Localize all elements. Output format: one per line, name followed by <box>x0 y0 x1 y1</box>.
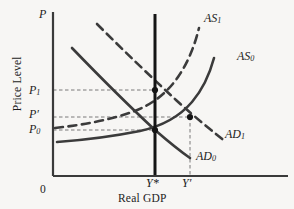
y-tick-p0-sub: 0 <box>36 127 40 136</box>
curve-label-as0-base: AS <box>237 49 250 63</box>
y-tick-p1-sub: 1 <box>36 88 40 97</box>
curve-label-ad0-base: AD <box>196 149 212 163</box>
curve-label-as1-sub: 1 <box>217 16 221 25</box>
equilibrium-point-eprime <box>187 114 193 120</box>
ad-as-diagram: Price Level Real GDP P 0 P1 P′ P0 Y* Y′ … <box>0 0 294 209</box>
curve-label-as1: AS1 <box>204 12 221 26</box>
y-axis-title: Price Level <box>12 48 24 120</box>
equilibrium-point-e0 <box>152 127 158 133</box>
curve-label-as0-sub: 0 <box>250 54 254 63</box>
curve-label-ad1: AD1 <box>225 128 245 142</box>
y-tick-p1: P1 <box>29 84 40 98</box>
x-tick-yprime: Y′ <box>182 177 191 189</box>
curve-label-ad0-sub: 0 <box>212 154 216 163</box>
curve-ad0 <box>72 48 190 158</box>
curve-label-ad1-base: AD <box>225 127 241 141</box>
curve-label-ad0: AD0 <box>196 150 216 164</box>
curve-as0 <box>57 58 214 142</box>
y-tick-pprime-base: P′ <box>29 107 39 121</box>
x-axis-title: Real GDP <box>118 193 167 205</box>
curve-as1 <box>55 28 199 128</box>
origin-label: 0 <box>40 184 46 196</box>
x-tick-ystar: Y* <box>146 177 159 189</box>
equilibrium-point-e1 <box>152 87 158 93</box>
curve-label-as1-base: AS <box>204 11 217 25</box>
curve-label-ad1-sub: 1 <box>241 132 245 141</box>
y-axis-top-label: P <box>39 8 46 20</box>
y-tick-p0: P0 <box>29 123 40 137</box>
curve-label-as0: AS0 <box>237 50 254 64</box>
y-tick-pprime: P′ <box>29 108 39 120</box>
reference-lines <box>53 90 190 176</box>
